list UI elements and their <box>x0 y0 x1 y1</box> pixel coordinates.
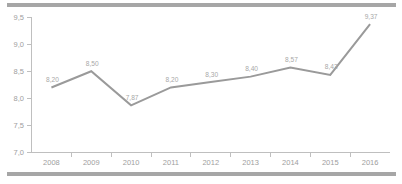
y-tick-label: 8,0 <box>14 94 24 103</box>
data-point-label: 8,20 <box>46 76 59 83</box>
y-axis: 9,59,08,58,07,57,0 <box>14 13 32 158</box>
x-tick-label: 2011 <box>163 158 179 167</box>
data-point-label: 7,87 <box>126 94 139 101</box>
x-tick-label: 2015 <box>322 158 339 167</box>
y-axis-ticks <box>27 17 32 153</box>
series-line-path <box>51 24 370 105</box>
x-tick-label: 2016 <box>362 158 379 167</box>
y-tick-label: 8,5 <box>14 67 24 76</box>
y-tick-label: 7,0 <box>14 148 24 157</box>
series-group <box>51 24 370 105</box>
y-tick-label: 9,5 <box>14 13 24 22</box>
data-point-label: 9,37 <box>365 13 378 20</box>
data-point-label: 8,43 <box>325 63 338 70</box>
y-tick-label: 9,0 <box>14 40 24 49</box>
x-tick-label: 2010 <box>123 158 140 167</box>
data-point-label: 8,57 <box>285 56 298 63</box>
x-axis-ticks <box>71 153 350 157</box>
line-chart: 9,59,08,58,07,57,0 200820092010201120122… <box>0 0 402 184</box>
x-tick-label: 2012 <box>202 158 219 167</box>
x-tick-label: 2013 <box>242 158 259 167</box>
x-axis-tick-labels: 200820092010201120122013201420152016 <box>43 158 378 167</box>
data-point-label: 8,20 <box>165 76 178 83</box>
data-point-label: 8,50 <box>86 60 99 67</box>
data-point-labels: 8,208,507,878,208,308,408,578,439,37 <box>46 13 378 101</box>
y-axis-tick-labels: 9,59,08,58,07,57,0 <box>14 13 24 158</box>
x-tick-label: 2008 <box>43 158 60 167</box>
x-tick-label: 2014 <box>282 158 299 167</box>
data-point-label: 8,40 <box>245 65 258 72</box>
chart-page: 9,59,08,58,07,57,0 200820092010201120122… <box>0 0 402 184</box>
data-point-label: 8,30 <box>205 71 218 78</box>
y-tick-label: 7,5 <box>14 121 24 130</box>
x-axis: 200820092010201120122013201420152016 <box>32 153 391 168</box>
x-tick-label: 2009 <box>83 158 100 167</box>
